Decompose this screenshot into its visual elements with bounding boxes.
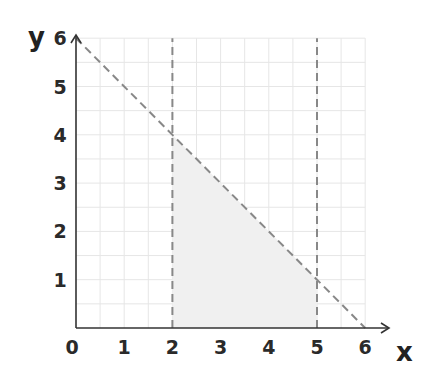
y-tick-label: 6 [53, 27, 66, 49]
x-tick-labels: 0123456 [65, 336, 371, 358]
chart: 0123456 123456 x y [0, 0, 424, 379]
x-tick-label: 6 [359, 336, 372, 358]
y-tick-labels: 123456 [53, 27, 66, 291]
x-tick-label: 0 [65, 336, 78, 358]
x-tick-label: 4 [262, 336, 275, 358]
x-tick-label: 5 [310, 336, 323, 358]
y-tick-label: 2 [53, 220, 66, 242]
x-tick-label: 3 [214, 336, 227, 358]
x-tick-label: 1 [118, 336, 131, 358]
x-tick-label: 2 [166, 336, 179, 358]
y-tick-label: 5 [53, 76, 66, 98]
x-axis-label: x [396, 337, 413, 367]
y-tick-label: 4 [53, 124, 66, 146]
y-axis-label: y [28, 22, 45, 52]
y-tick-label: 1 [53, 269, 66, 291]
y-tick-label: 3 [53, 172, 66, 194]
